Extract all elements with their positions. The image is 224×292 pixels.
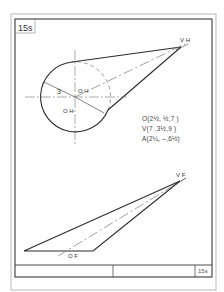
front-apex-tick [173, 178, 186, 186]
front-axis-line [58, 178, 186, 256]
tangent-lower [108, 47, 181, 110]
drawing-sheet [0, 0, 224, 292]
outer-border [11, 14, 216, 290]
label-center-top: O H [78, 88, 89, 94]
axis-line [75, 44, 185, 97]
label-apex-front: V F [176, 172, 185, 178]
coord-A: A(2¼, –,6½) [142, 135, 180, 142]
cone-front-triangle [24, 181, 180, 251]
label-apex-top: V H [180, 37, 190, 43]
radius-line-lower [75, 97, 104, 113]
label-radius: 3 [57, 88, 61, 95]
tangent-upper [72, 47, 181, 62]
label-center-alt: O H [63, 108, 74, 114]
coord-V: V(7 ,3½,9 ) [142, 125, 176, 132]
inner-frame [15, 19, 212, 277]
label-center-front: O F [68, 253, 78, 259]
coord-O: O(2½, ½,7 ) [142, 115, 179, 122]
sheet-id: 15s [18, 23, 33, 33]
title-block-id: 15s [198, 265, 208, 277]
front-view [24, 178, 186, 256]
base-circle-hidden [72, 62, 111, 110]
